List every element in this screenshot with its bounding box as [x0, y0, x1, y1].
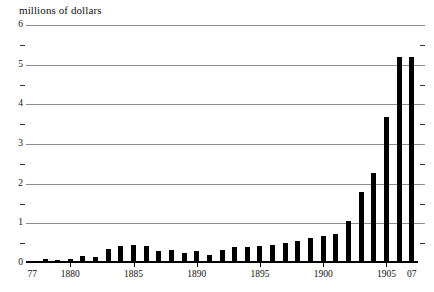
x-axis-label-1895: 1895 [250, 269, 269, 279]
y-minor-tick-right-4.5 [420, 85, 425, 86]
bar-1900 [321, 236, 326, 263]
gridline-6 [26, 25, 418, 26]
bar-1898 [295, 241, 300, 263]
bar-1901 [333, 234, 338, 263]
y-minor-tick-right-2.5 [420, 164, 425, 165]
y-minor-tick-left-4.5 [20, 85, 25, 86]
bar-1902 [346, 221, 351, 263]
x-tick-1880 [70, 263, 71, 267]
y-major-tick-right-3 [418, 144, 425, 145]
y-minor-tick-left-5.5 [20, 45, 25, 46]
y-axis-label-1: 1 [18, 219, 23, 229]
bar-1904 [371, 173, 376, 263]
y-minor-tick-left-3.5 [20, 124, 25, 125]
y-major-tick-right-6 [418, 25, 425, 26]
bar-chart: millions of dollars 0123456 771880188518… [0, 0, 434, 292]
x-axis-label-07: 07 [407, 269, 417, 279]
y-minor-tick-right-0.5 [420, 243, 425, 244]
chart-title: millions of dollars [19, 4, 102, 16]
y-minor-tick-left-2.5 [20, 164, 25, 165]
y-major-tick-right-5 [418, 65, 425, 66]
gridline-5 [26, 65, 418, 66]
x-axis-label-77: 77 [28, 269, 38, 279]
x-axis-label-1890: 1890 [187, 269, 206, 279]
y-axis-label-5: 5 [18, 60, 23, 70]
x-axis-label-1885: 1885 [124, 269, 143, 279]
x-axis-label-1905: 1905 [377, 269, 396, 279]
y-minor-tick-left-1.5 [20, 204, 25, 205]
y-minor-tick-left-0.5 [20, 243, 25, 244]
y-axis-label-4: 4 [18, 100, 23, 110]
y-axis-label-0: 0 [18, 258, 23, 268]
y-minor-tick-right-5.5 [420, 45, 425, 46]
bar-1905 [384, 117, 389, 263]
y-axis-label-3: 3 [18, 139, 23, 149]
y-major-tick-right-1 [418, 223, 425, 224]
bar-1907 [409, 57, 414, 263]
bar-1899 [308, 238, 313, 263]
x-tick-1885 [134, 263, 135, 267]
y-major-tick-right-4 [418, 104, 425, 105]
bar-1903 [359, 192, 364, 263]
bar-1897 [283, 243, 288, 263]
bar-1885 [131, 245, 136, 263]
y-major-tick-right-2 [418, 184, 425, 185]
y-minor-tick-right-3.5 [420, 124, 425, 125]
y-minor-tick-right-1.5 [420, 204, 425, 205]
gridline-3 [26, 144, 418, 145]
y-axis-label-6: 6 [18, 20, 23, 30]
x-axis-label-1900: 1900 [314, 269, 333, 279]
bar-1896 [270, 245, 275, 263]
bar-1906 [397, 57, 402, 263]
x-tick-1890 [197, 263, 198, 267]
x-tick-1905 [386, 263, 387, 267]
x-axis-baseline [26, 261, 418, 263]
x-tick-1900 [323, 263, 324, 267]
plot-area: 0123456 7718801885189018951900190507 [26, 25, 418, 263]
x-axis-label-1880: 1880 [61, 269, 80, 279]
gridline-2 [26, 184, 418, 185]
gridline-4 [26, 104, 418, 105]
x-tick-1895 [260, 263, 261, 267]
y-axis-label-2: 2 [18, 179, 23, 189]
